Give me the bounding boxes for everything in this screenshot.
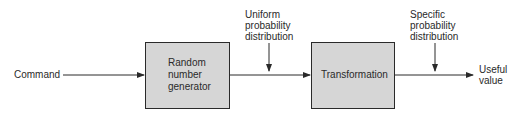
rng-line-3: generator — [168, 81, 211, 93]
output-line-1: Useful — [479, 64, 507, 75]
command-label: Command — [14, 69, 60, 80]
uniform-line-1: Uniform — [245, 9, 293, 20]
transformation-block: Transformation — [311, 42, 395, 109]
uniform-line-2: probability — [245, 20, 293, 31]
specific-line-1: Specific — [410, 9, 458, 20]
rng-line-1: Random — [168, 57, 211, 69]
specific-distribution-label: Specific probability distribution — [410, 9, 458, 42]
specific-line-3: distribution — [410, 31, 458, 42]
uniform-line-3: distribution — [245, 31, 293, 42]
useful-value-label: Useful value — [479, 64, 507, 86]
rng-block-label: Random number generator — [168, 57, 211, 93]
specific-line-2: probability — [410, 20, 458, 31]
random-number-generator-block: Random number generator — [145, 42, 230, 109]
rng-line-2: number — [168, 69, 211, 81]
output-line-2: value — [479, 75, 507, 86]
uniform-distribution-label: Uniform probability distribution — [245, 9, 293, 42]
transformation-block-label: Transformation — [321, 69, 388, 81]
